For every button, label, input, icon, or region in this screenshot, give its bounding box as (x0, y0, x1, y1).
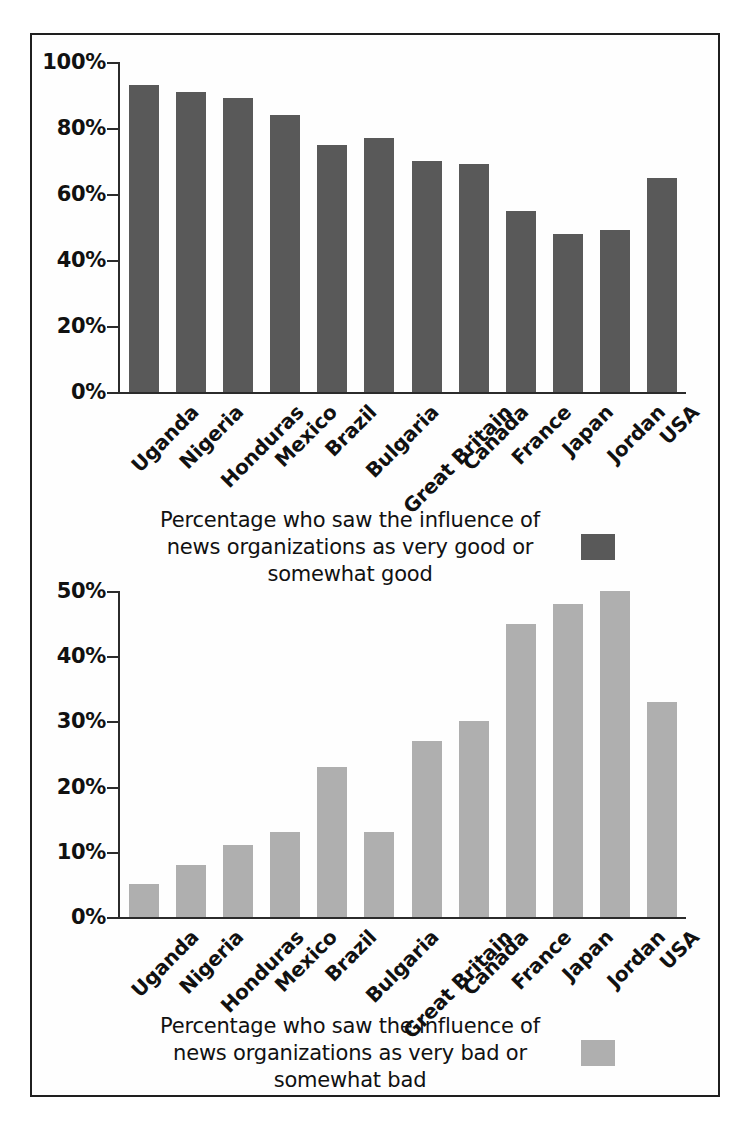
legend-bad-text: Percentage who saw the influence of news… (135, 1013, 565, 1094)
x-axis-labels-good: UgandaNigeriaHondurasMexicoBrazilBulgari… (120, 396, 688, 397)
y-tick-label: 60% (57, 182, 106, 206)
y-tick-label: 40% (57, 248, 106, 272)
bar-bulgaria (364, 832, 394, 917)
bar-slot (592, 591, 639, 917)
y-tick (107, 852, 118, 854)
bar-slot (592, 62, 639, 392)
bar-slot (167, 591, 214, 917)
y-tick-label: 80% (57, 116, 106, 140)
bar-slot (639, 591, 686, 917)
y-tick-label: 40% (57, 644, 106, 668)
y-tick (107, 128, 118, 130)
y-tick-label: 0% (71, 905, 106, 929)
bar-mexico (270, 832, 300, 917)
bar-brazil (317, 767, 347, 917)
bar-usa (647, 178, 677, 393)
x-axis-good (118, 392, 686, 394)
bar-great-britain (412, 741, 442, 917)
legend-bad-swatch (581, 1040, 615, 1066)
bar-slot (450, 591, 497, 917)
legend-bad: Percentage who saw the influence of news… (32, 1013, 718, 1094)
x-label-slot: Brazil (309, 921, 356, 922)
bar-slot (214, 62, 261, 392)
y-tick (107, 326, 118, 328)
bar-series-bad (120, 591, 686, 917)
x-axis-label-usa: USA (655, 400, 704, 449)
bar-canada (459, 721, 489, 917)
x-label-slot: Canada (451, 921, 498, 922)
bar-honduras (223, 845, 253, 917)
y-tick (107, 721, 118, 723)
bar-uganda (129, 85, 159, 392)
bar-slot (639, 62, 686, 392)
y-tick-label: 20% (57, 775, 106, 799)
bar-jordan (600, 230, 630, 392)
bar-slot (167, 62, 214, 392)
bar-bulgaria (364, 138, 394, 392)
y-tick-label: 20% (57, 314, 106, 338)
y-tick (107, 194, 118, 196)
y-tick (107, 392, 118, 394)
x-label-slot: Honduras (215, 921, 262, 922)
x-axis-bad (118, 917, 686, 919)
x-axis-label-usa: USA (655, 925, 704, 974)
bar-slot (545, 591, 592, 917)
y-tick-label: 30% (57, 709, 106, 733)
bar-slot (214, 591, 261, 917)
bar-slot (262, 591, 309, 917)
bar-brazil (317, 145, 347, 393)
y-tick (107, 591, 118, 593)
y-tick (107, 917, 118, 919)
x-label-slot: Jordan (593, 396, 640, 397)
figure-frame: 100%80%60%40%20%0% UgandaNigeriaHonduras… (30, 33, 720, 1097)
x-axis-labels-bad: UgandaNigeriaHondurasMexicoBrazilBulgari… (120, 921, 688, 922)
bar-slot (120, 591, 167, 917)
y-tick-label: 0% (71, 380, 106, 404)
x-label-slot: Bulgaria (357, 921, 404, 922)
bar-nigeria (176, 865, 206, 917)
x-label-slot: Japan (546, 396, 593, 397)
y-tick (107, 260, 118, 262)
x-label-slot: USA (641, 921, 688, 922)
bar-france (506, 211, 536, 393)
bar-slot (356, 591, 403, 917)
bar-nigeria (176, 92, 206, 392)
bar-canada (459, 164, 489, 392)
x-label-slot: France (499, 921, 546, 922)
bar-uganda (129, 884, 159, 917)
bar-great-britain (412, 161, 442, 392)
x-label-slot: Brazil (309, 396, 356, 397)
bar-slot (403, 62, 450, 392)
x-label-slot: Great Britain (404, 921, 451, 922)
y-tick-label: 50% (57, 579, 106, 603)
x-label-slot: Great Britain (404, 396, 451, 397)
bar-slot (545, 62, 592, 392)
bar-slot (309, 591, 356, 917)
plot-area-bad: 50%40%30%20%10%0% (118, 591, 686, 919)
bar-slot (309, 62, 356, 392)
x-label-slot: France (499, 396, 546, 397)
x-label-slot: Japan (546, 921, 593, 922)
legend-good: Percentage who saw the influence of news… (32, 507, 718, 588)
bar-slot (120, 62, 167, 392)
bar-japan (553, 604, 583, 917)
x-label-slot: USA (641, 396, 688, 397)
bar-series-good (120, 62, 686, 392)
bar-slot (403, 591, 450, 917)
plot-area-good: 100%80%60%40%20%0% (118, 62, 686, 394)
x-label-slot: Honduras (215, 396, 262, 397)
y-tick (107, 656, 118, 658)
x-label-slot: Canada (451, 396, 498, 397)
bar-mexico (270, 115, 300, 392)
bar-japan (553, 234, 583, 392)
bar-slot (450, 62, 497, 392)
bar-slot (497, 62, 544, 392)
x-label-slot: Nigeria (167, 396, 214, 397)
bar-slot (356, 62, 403, 392)
legend-good-swatch (581, 534, 615, 560)
bar-honduras (223, 98, 253, 392)
bar-france (506, 624, 536, 917)
bar-jordan (600, 591, 630, 917)
y-tick (107, 62, 118, 64)
x-label-slot: Jordan (593, 921, 640, 922)
